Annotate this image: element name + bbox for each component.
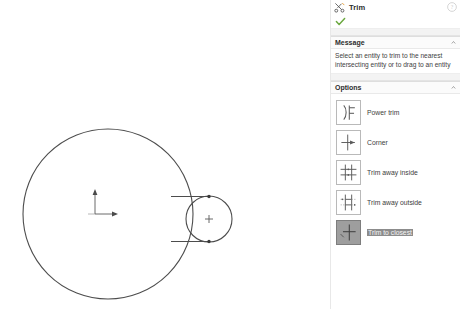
options-section-label: Options xyxy=(335,84,361,91)
green-check-icon[interactable] xyxy=(335,16,346,27)
sketch-canvas[interactable] xyxy=(0,0,330,309)
sketch-drawing xyxy=(0,0,330,309)
message-section-label: Message xyxy=(335,39,365,46)
endpoint-top[interactable] xyxy=(207,195,210,198)
endpoint-bottom[interactable] xyxy=(207,240,210,243)
help-question-icon[interactable]: ? xyxy=(447,2,457,12)
svg-text:?: ? xyxy=(451,4,454,10)
origin-marker-icon xyxy=(88,189,118,216)
message-options-divider xyxy=(331,73,460,81)
option-power-trim-label: Power trim xyxy=(367,109,399,116)
option-trim-away-inside[interactable]: Trim away inside xyxy=(331,157,460,187)
option-trim-to-closest-label: Trim to closest xyxy=(367,229,413,236)
option-trim-away-outside[interactable]: Trim away outside xyxy=(331,187,460,217)
trim-property-manager: Trim ? Message Select an entity to trim … xyxy=(330,0,460,309)
trim-options-list: Power trim Corner xyxy=(331,94,460,247)
option-trim-away-outside-label: Trim away outside xyxy=(367,199,422,206)
options-section: Options Power trim xyxy=(331,81,460,247)
option-power-trim[interactable]: Power trim xyxy=(331,97,460,127)
message-section-header[interactable]: Message xyxy=(331,36,460,49)
message-text: Select an entity to trim to the nearest … xyxy=(331,49,460,73)
chevron-up-icon[interactable] xyxy=(451,40,456,45)
trim-away-inside-icon[interactable] xyxy=(336,160,361,185)
options-section-header[interactable]: Options xyxy=(331,81,460,94)
panel-header: Trim ? xyxy=(331,0,460,14)
chevron-up-icon[interactable] xyxy=(451,85,456,90)
trim-to-closest-icon[interactable] xyxy=(336,220,361,245)
message-section: Message Select an entity to trim to the … xyxy=(331,36,460,73)
option-corner-label: Corner xyxy=(367,139,388,146)
confirm-row xyxy=(331,14,460,28)
corner-trim-icon[interactable] xyxy=(336,130,361,155)
trim-scissors-icon xyxy=(334,2,345,13)
trim-away-outside-icon[interactable] xyxy=(336,190,361,215)
panel-divider-band xyxy=(331,28,460,36)
option-corner[interactable]: Corner xyxy=(331,127,460,157)
power-trim-icon[interactable] xyxy=(336,100,361,125)
option-trim-away-inside-label: Trim away inside xyxy=(367,169,418,176)
panel-title: Trim xyxy=(349,3,365,12)
option-trim-to-closest[interactable]: Trim to closest xyxy=(331,217,460,247)
small-circle-center-plus xyxy=(205,215,213,223)
